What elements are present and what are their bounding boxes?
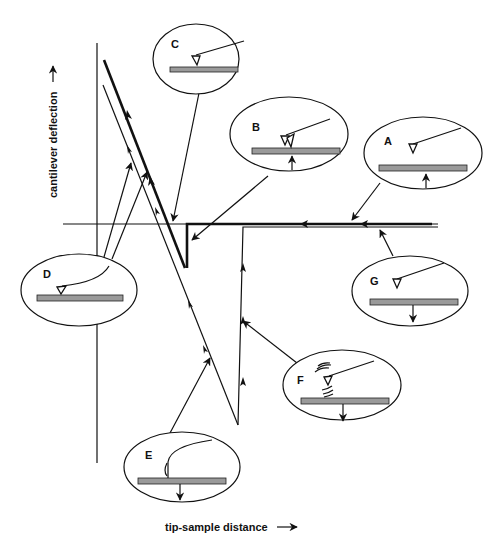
leader-g <box>380 230 393 256</box>
leader-b <box>192 176 268 240</box>
inset-g: G <box>352 256 468 326</box>
inset-label-e: E <box>145 449 152 461</box>
sample-surface <box>301 398 389 404</box>
leader-f <box>243 321 297 363</box>
inset-d: D <box>21 254 137 326</box>
inset-a: A <box>364 117 482 189</box>
sample-surface <box>37 295 123 301</box>
y-axis-label-group: cantilever deflection <box>47 66 59 198</box>
inset-e: E <box>124 432 240 502</box>
leader-a <box>352 183 380 220</box>
inset-label-a: A <box>384 135 392 147</box>
force-curve-diagram: C B A D G <box>0 0 499 548</box>
sample-surface <box>379 165 467 171</box>
sample-surface <box>252 148 340 154</box>
arrow-up-icon <box>240 377 246 386</box>
inset-c: C <box>153 24 244 94</box>
leader-c <box>173 93 199 221</box>
sample-surface <box>138 478 226 484</box>
arrow-up-icon <box>240 263 246 272</box>
inset-label-c: C <box>171 38 179 50</box>
leader-e <box>170 358 210 433</box>
arrow-down-icon <box>188 300 193 309</box>
inset-label-g: G <box>370 275 379 287</box>
leader-d-1 <box>104 163 131 257</box>
arrow-up-icon <box>125 110 132 120</box>
leader-d-2 <box>112 172 147 259</box>
inset-label-b: B <box>252 121 260 133</box>
sample-surface <box>370 299 458 305</box>
y-axis-label: cantilever deflection <box>47 91 59 198</box>
arrow-down-icon <box>155 207 160 216</box>
retract-line <box>103 85 238 425</box>
contact-line-bold <box>104 60 185 268</box>
x-axis-label: tip-sample distance <box>165 521 268 533</box>
inset-b: B <box>230 97 348 171</box>
sample-surface <box>170 67 238 72</box>
inset-label-d: D <box>43 268 51 280</box>
inset-f: F <box>283 350 401 421</box>
inset-label-f: F <box>297 374 304 386</box>
x-axis-label-group: tip-sample distance <box>165 521 297 533</box>
